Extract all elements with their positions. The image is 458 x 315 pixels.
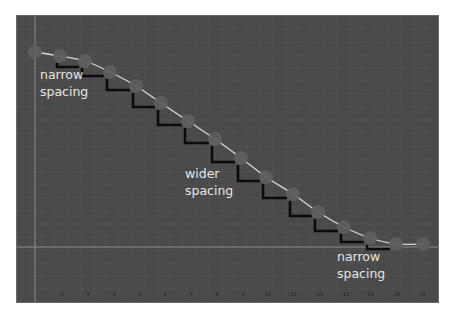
spacing-bracket bbox=[133, 93, 155, 107]
keyframe-dot bbox=[53, 49, 67, 63]
frame-number: 4 bbox=[112, 291, 115, 297]
annotation-line1: narrow bbox=[40, 66, 88, 83]
spacing-bracket bbox=[263, 184, 287, 198]
spacing-bracket bbox=[290, 201, 312, 216]
keyframe-dot bbox=[154, 96, 168, 110]
keyframe-dot bbox=[337, 220, 351, 234]
annotation-line2: spacing bbox=[40, 83, 88, 100]
keyframe-dot bbox=[129, 79, 143, 93]
spacing-diagram bbox=[0, 0, 458, 315]
keyframe-dot bbox=[311, 205, 325, 219]
frame-number: 8 bbox=[215, 291, 218, 297]
frame-number: 7 bbox=[189, 291, 192, 297]
frame-number: 12 bbox=[317, 291, 323, 297]
annotation-narrow-spacing-end: narrow spacing bbox=[337, 248, 385, 282]
frame-number: 16 bbox=[420, 291, 426, 297]
frame-number: 10 bbox=[265, 291, 271, 297]
annotation-line2: spacing bbox=[337, 265, 385, 282]
keyframe-dot bbox=[181, 114, 195, 128]
keyframe-dot bbox=[103, 65, 117, 79]
spacing-bracket bbox=[238, 165, 260, 181]
keyframe-dot bbox=[286, 187, 300, 201]
frame-number: 3 bbox=[86, 291, 89, 297]
frame-number: 5 bbox=[138, 291, 141, 297]
keyframe-dot bbox=[28, 45, 42, 59]
annotation-line1: narrow bbox=[337, 248, 385, 265]
spacing-bracket bbox=[158, 110, 182, 125]
frame-number: 2 bbox=[60, 291, 63, 297]
keyframe-dot bbox=[208, 132, 222, 146]
keyframe-dot bbox=[259, 170, 273, 184]
keyframe-dot bbox=[389, 237, 403, 251]
annotation-line2: spacing bbox=[185, 182, 233, 199]
frame-number: 11 bbox=[291, 291, 297, 297]
spacing-bracket bbox=[212, 146, 235, 162]
frame-number: 15 bbox=[394, 291, 400, 297]
annotation-wider-spacing: wider spacing bbox=[185, 165, 233, 199]
spacing-brackets bbox=[57, 63, 390, 249]
frame-number: 9 bbox=[241, 291, 244, 297]
keyframe-dot bbox=[234, 151, 248, 165]
keyframe-dot bbox=[363, 231, 377, 245]
frame-number: 14 bbox=[368, 291, 374, 297]
frame-number: 13 bbox=[343, 291, 349, 297]
keyframe-dot bbox=[416, 237, 430, 251]
spacing-bracket bbox=[185, 128, 209, 143]
spacing-bracket bbox=[315, 219, 338, 231]
annotation-narrow-spacing-start: narrow spacing bbox=[40, 66, 88, 100]
annotation-line1: wider bbox=[185, 165, 233, 182]
frame-number: 6 bbox=[163, 291, 166, 297]
